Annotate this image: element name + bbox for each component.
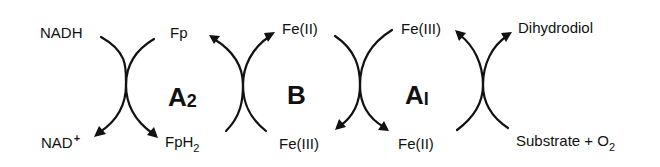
fph-text: FpH: [165, 133, 193, 150]
arrow-fe2-to-fe3-up: [457, 35, 483, 130]
label-fp: Fp: [170, 25, 188, 40]
arrowhead-icon: [335, 119, 346, 130]
arrow-fe3-to-fe2: [226, 36, 270, 131]
label-fe2-bottom: Fe(II): [398, 136, 434, 151]
label-fe3-top: Fe(III): [401, 21, 441, 36]
crossed-arrows-a2: [94, 37, 158, 138]
substrate-text: Substrate + O: [516, 132, 609, 149]
crossed-arrows-a1-iron: [335, 30, 392, 131]
redox-coupling-diagram: NADH Fp NAD+ FpH2 A2 B Fe(II) Fe(III) Fe…: [0, 0, 660, 167]
arrow-fe2-to-fe3: [335, 36, 360, 126]
arrow-fp-to-fph2: [126, 39, 154, 133]
arrow-fe3-to-fe2-right: [360, 30, 392, 127]
arrowhead-icon: [378, 121, 389, 131]
arrow-substrate-to-dihydrodiol: [483, 36, 508, 128]
label-fph2: FpH2: [165, 134, 199, 149]
fph-subscript: 2: [193, 142, 199, 154]
o2-subscript: 2: [609, 141, 615, 153]
a2-main: A: [168, 82, 187, 112]
arrow-fph2-to-fp: [214, 39, 266, 131]
nad-text: NAD: [41, 134, 73, 151]
label-dihydrodiol: Dihydrodiol: [518, 20, 593, 35]
label-fe3-bottom: Fe(III): [279, 136, 319, 151]
arrowhead-icon: [147, 127, 158, 138]
cycle-label-b: B: [287, 82, 306, 108]
label-nad-plus: NAD+: [41, 135, 80, 150]
cycle-label-a2: A2: [168, 84, 197, 110]
label-nadh: NADH: [40, 25, 83, 40]
crossed-arrows-b: [209, 32, 275, 131]
label-substrate-o2: Substrate + O2: [516, 133, 615, 148]
a1-main: A: [405, 80, 424, 110]
label-fe2-top: Fe(II): [282, 21, 318, 36]
cycle-label-a1: AI: [405, 82, 429, 108]
a1-subscript: I: [424, 89, 429, 109]
a2-subscript: 2: [187, 91, 197, 111]
nad-charge: +: [74, 132, 80, 144]
arrow-nadh-to-nad: [100, 37, 126, 132]
crossed-arrows-a1-substrate: [455, 30, 512, 130]
